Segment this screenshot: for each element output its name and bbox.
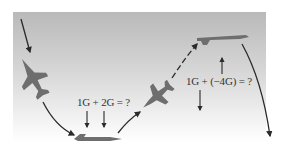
jet-level-bottom-icon [74, 134, 122, 141]
jet-climbing-icon [135, 75, 178, 117]
climb-arrow-upper [172, 44, 197, 78]
pushover-g-label: 1G + (−4G) = ? [186, 75, 252, 87]
descent-arrow [242, 44, 270, 136]
climb-arrow [118, 112, 140, 133]
dive-arrow [21, 19, 30, 52]
jet-level-top-icon [197, 35, 249, 45]
pullout-g-label: 1G + 2G = ? [77, 96, 130, 108]
jet-diving-icon [10, 52, 56, 103]
force-down-arrows-bottom [87, 111, 104, 127]
pullout-arrow [43, 102, 74, 135]
